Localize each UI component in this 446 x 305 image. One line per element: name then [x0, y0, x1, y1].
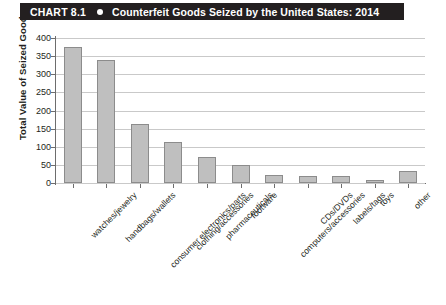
x-tick-mark [140, 184, 141, 188]
x-tick-mark [106, 184, 107, 188]
bar [164, 142, 182, 183]
x-tick-mark [274, 184, 275, 188]
y-tick-label: 350 [36, 51, 51, 61]
bar [232, 165, 250, 183]
y-tick-label: 250 [36, 87, 51, 97]
x-tick-mark [73, 184, 74, 188]
y-tick-mark [51, 147, 55, 148]
x-tick-label: other [412, 190, 433, 211]
bar [366, 180, 384, 183]
y-tick-mark [51, 74, 55, 75]
bar [332, 176, 350, 183]
bar [265, 175, 283, 183]
y-tick-mark [51, 56, 55, 57]
y-tick-label: 50 [41, 160, 51, 170]
y-tick-label: 150 [36, 124, 51, 134]
bar [198, 157, 216, 183]
y-tick-mark [51, 38, 55, 39]
bar [64, 47, 82, 183]
y-tick-label: 400 [36, 33, 51, 43]
gridline [56, 56, 425, 57]
y-tick-mark [51, 165, 55, 166]
x-tick-mark [375, 184, 376, 188]
x-tick-mark [308, 184, 309, 188]
x-tick-mark [207, 184, 208, 188]
chart-figure: Total Value of Seized Goods 050100150200… [0, 0, 446, 305]
bar [131, 124, 149, 183]
gridline [56, 38, 425, 39]
bar [399, 171, 417, 183]
y-tick-label: 100 [36, 142, 51, 152]
x-tick-mark [408, 184, 409, 188]
bar [97, 60, 115, 183]
x-tick-mark [173, 184, 174, 188]
y-tick-mark [51, 183, 55, 184]
y-axis-tick-labels: 050100150200250300350400 [24, 0, 51, 305]
y-tick-mark [51, 129, 55, 130]
plot-area [56, 38, 425, 183]
y-tick-label: 300 [36, 69, 51, 79]
x-tick-mark [341, 184, 342, 188]
x-tick-mark [241, 184, 242, 188]
y-tick-label: 200 [36, 106, 51, 116]
y-tick-mark [51, 92, 55, 93]
y-tick-mark [51, 111, 55, 112]
bar [299, 176, 317, 183]
